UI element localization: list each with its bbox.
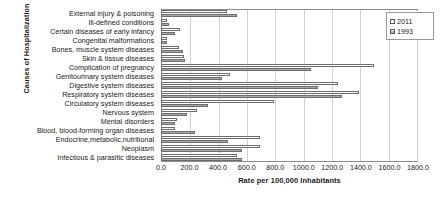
bar-1993 bbox=[161, 104, 208, 107]
bar-group bbox=[161, 144, 418, 153]
bar-group bbox=[161, 108, 418, 117]
bar-group bbox=[161, 36, 418, 45]
bar-2011 bbox=[161, 118, 177, 121]
bar-2011 bbox=[161, 82, 338, 85]
bar-1993 bbox=[161, 50, 183, 53]
x-tick-label: 1200.0 bbox=[321, 163, 343, 172]
bar-group bbox=[161, 72, 418, 81]
bar-group bbox=[161, 54, 418, 63]
horizontal-bar-chart: Causes of Hospitalization External injur… bbox=[0, 0, 440, 210]
category-label: Mental disorders bbox=[0, 117, 158, 126]
bar-2011 bbox=[161, 28, 180, 31]
category-label: Nervous system bbox=[0, 108, 158, 117]
bar-1993 bbox=[161, 122, 175, 125]
bar-2011 bbox=[161, 55, 184, 58]
bar-group bbox=[161, 99, 418, 108]
bar-group bbox=[161, 135, 418, 144]
category-label: Infectious & parasitic diseases bbox=[0, 153, 158, 162]
x-tick-label: 0.0 bbox=[156, 163, 166, 172]
bar-1993 bbox=[161, 95, 342, 98]
x-tick-label: 600.0 bbox=[238, 163, 256, 172]
bar-2011 bbox=[161, 91, 359, 94]
bar-2011 bbox=[161, 73, 230, 76]
bar-2011 bbox=[161, 100, 274, 103]
category-label: Certain diseases of early infancy bbox=[0, 27, 158, 36]
bar-2011 bbox=[161, 19, 167, 22]
bar-2011 bbox=[161, 46, 179, 49]
bar-2011 bbox=[161, 64, 374, 67]
x-axis-tick-labels: 0.0200.0400.0600.0800.01000.01200.01400.… bbox=[161, 163, 418, 173]
category-label: Skin & tissue diseases bbox=[0, 54, 158, 63]
x-tick-label: 1400.0 bbox=[350, 163, 372, 172]
bar-group bbox=[161, 126, 418, 135]
bar-group bbox=[161, 9, 418, 18]
category-label: Congenital malformations bbox=[0, 36, 158, 45]
y-axis-category-labels: External injury & poisoningIll-defined c… bbox=[0, 9, 158, 162]
category-label: Bones, muscle system diseases bbox=[0, 45, 158, 54]
legend: 20111993 bbox=[386, 12, 434, 40]
x-tick-label: 800.0 bbox=[266, 163, 284, 172]
x-tick-label: 1800.0 bbox=[407, 163, 429, 172]
bar-2011 bbox=[161, 109, 197, 112]
x-tick-label: 400.0 bbox=[209, 163, 227, 172]
bar-group bbox=[161, 81, 418, 90]
bar-1993 bbox=[161, 113, 187, 116]
category-label: Respiratory system diseases bbox=[0, 90, 158, 99]
category-label: Circulatory system diseases bbox=[0, 99, 158, 108]
bar-2011 bbox=[161, 37, 167, 40]
x-tick-label: 1000.0 bbox=[293, 163, 315, 172]
bar-1993 bbox=[161, 68, 311, 71]
x-axis-title: Rate per 100,000 Inhabitants bbox=[161, 176, 418, 185]
bar-1993 bbox=[161, 32, 175, 35]
bar-1993 bbox=[161, 149, 242, 152]
bars-container bbox=[161, 9, 418, 162]
bar-1993 bbox=[161, 158, 242, 161]
category-label: Genitourinary system diseases bbox=[0, 72, 158, 81]
bar-2011 bbox=[161, 127, 175, 130]
bar-2011 bbox=[161, 145, 260, 148]
category-label: Digestive system diseases bbox=[0, 81, 158, 90]
bar-2011 bbox=[161, 154, 237, 157]
x-tick-label: 1600.0 bbox=[378, 163, 400, 172]
legend-swatch-icon bbox=[390, 29, 395, 34]
legend-swatch-icon bbox=[390, 19, 395, 24]
bar-group bbox=[161, 117, 418, 126]
legend-label: 1993 bbox=[397, 27, 413, 36]
category-label: External injury & poisoning bbox=[0, 9, 158, 18]
legend-item-2011[interactable]: 2011 bbox=[390, 16, 430, 26]
bar-1993 bbox=[161, 23, 169, 26]
bar-2011 bbox=[161, 10, 227, 13]
category-label: Complication of pregnancy bbox=[0, 63, 158, 72]
bar-1993 bbox=[161, 140, 228, 143]
legend-item-1993[interactable]: 1993 bbox=[390, 26, 430, 36]
bar-2011 bbox=[161, 136, 260, 139]
bar-1993 bbox=[161, 41, 167, 44]
bar-group bbox=[161, 153, 418, 162]
bar-1993 bbox=[161, 86, 318, 89]
category-label: Ill-defined conditions bbox=[0, 18, 158, 27]
bar-1993 bbox=[161, 14, 237, 17]
category-label: Endocrine,metabolic,nutritional bbox=[0, 135, 158, 144]
bar-group bbox=[161, 45, 418, 54]
x-tick-label: 200.0 bbox=[181, 163, 199, 172]
bar-1993 bbox=[161, 77, 222, 80]
bar-group bbox=[161, 18, 418, 27]
bar-group bbox=[161, 63, 418, 72]
category-label: Blood, blood-forming organ diseases bbox=[0, 126, 158, 135]
category-label: Neoplasm bbox=[0, 144, 158, 153]
bar-1993 bbox=[161, 131, 195, 134]
bar-group bbox=[161, 27, 418, 36]
legend-label: 2011 bbox=[397, 17, 412, 26]
bar-1993 bbox=[161, 59, 185, 62]
bar-group bbox=[161, 90, 418, 99]
